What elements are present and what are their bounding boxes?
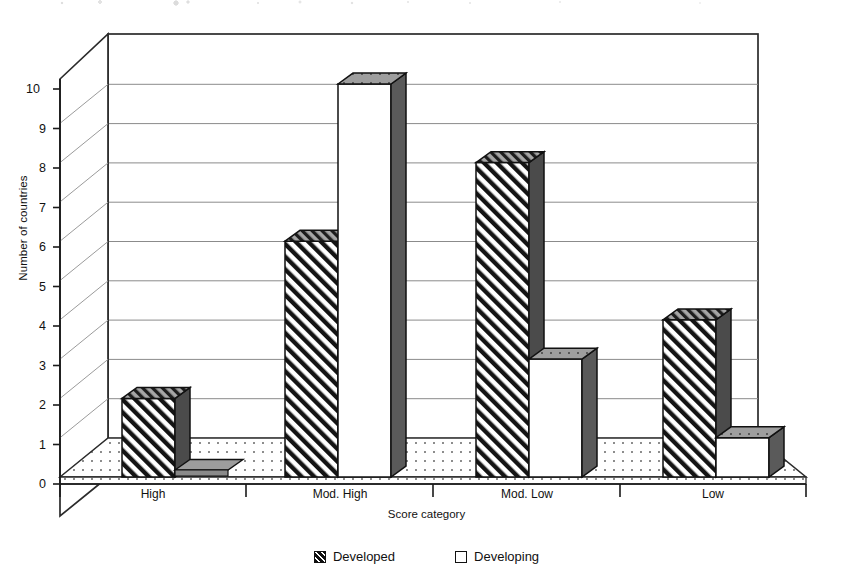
bar-modhigh-developing (338, 73, 406, 477)
y-tick-label: 10 (8, 83, 40, 96)
bar-low-developed (663, 309, 731, 477)
y-tick-label: 9 (14, 123, 46, 136)
bar-modlow-developed (476, 152, 544, 477)
y-tick-label: 4 (14, 320, 46, 333)
legend-label-developing: Developing (474, 549, 539, 564)
bar-modlow-developing (529, 348, 597, 477)
chart-legend: Developed Developing (0, 549, 853, 564)
plot-back-wall (108, 34, 758, 477)
bar-modhigh-developed (285, 230, 353, 477)
y-tick-label: 0 (14, 478, 46, 491)
legend-item-developing: Developing (455, 549, 539, 564)
plot-floor-edge (60, 477, 806, 484)
plot-floor (60, 438, 806, 477)
scan-artifact (0, 0, 853, 10)
y-tick-label: 5 (14, 281, 46, 294)
y-tick-label: 8 (14, 162, 46, 175)
y-tick-label: 2 (14, 399, 46, 412)
y-tick-label: 7 (14, 202, 46, 215)
y-tick-marks (53, 89, 60, 484)
x-tick-label-low: Low (663, 487, 763, 501)
x-tick-label-high: High (103, 487, 203, 501)
hatched-square-icon (314, 551, 326, 563)
x-tick-label-mod-high: Mod. High (290, 487, 390, 501)
legend-item-developed: Developed (314, 549, 395, 564)
bar-high-developed (122, 388, 190, 478)
y-tick-label: 1 (14, 439, 46, 452)
plot-left-wall (60, 34, 108, 516)
chart-figure: Number of countries Score category (0, 0, 853, 587)
y-tick-label: 3 (14, 360, 46, 373)
gridlines (108, 84, 758, 438)
legend-label-developed: Developed (333, 549, 395, 564)
bar-low-developing (716, 427, 784, 477)
y-tick-label: 6 (14, 241, 46, 254)
x-tick-label-mod-low: Mod. Low (477, 487, 577, 501)
empty-square-icon (455, 551, 467, 563)
left-wall-depth-lines (60, 84, 108, 477)
x-axis-title: Score category (0, 508, 853, 520)
bar-high-developing (175, 460, 243, 477)
